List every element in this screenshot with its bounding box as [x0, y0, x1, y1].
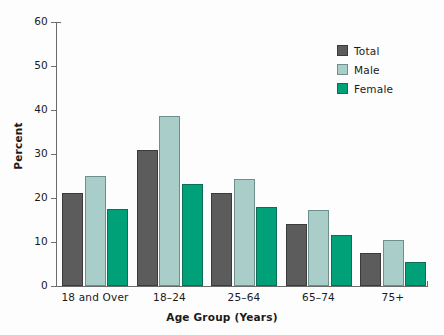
legend-swatch-icon — [337, 83, 348, 94]
bar-female-1 — [182, 184, 203, 286]
legend-swatch-icon — [337, 45, 348, 56]
y-axis-tick-label: 30 — [2, 147, 48, 159]
bar-total-3 — [286, 224, 307, 286]
bar-male-4 — [383, 240, 404, 286]
bar-female-2 — [256, 207, 277, 286]
y-axis-tick-label: 10 — [2, 235, 48, 247]
y-axis-title: Percent — [12, 111, 24, 181]
bar-female-0 — [107, 209, 128, 286]
bar-total-1 — [137, 150, 158, 286]
legend-label: Male — [354, 64, 380, 76]
legend-label: Total — [354, 45, 380, 57]
chart-legend: TotalMaleFemale — [337, 42, 393, 99]
bar-male-0 — [85, 176, 106, 286]
y-axis-tick-label: 0 — [2, 279, 48, 291]
bar-female-4 — [405, 262, 426, 286]
legend-item-total: Total — [337, 42, 393, 59]
bar-total-0 — [62, 193, 83, 286]
x-axis-line — [56, 286, 428, 287]
bar-male-2 — [234, 179, 255, 286]
bar-female-3 — [331, 235, 352, 286]
legend-label: Female — [354, 83, 393, 95]
bar-total-2 — [211, 193, 232, 286]
y-axis-tick-label: 50 — [2, 59, 48, 71]
x-axis-tick-label: 75+ — [333, 291, 444, 303]
legend-item-female: Female — [337, 80, 393, 97]
legend-item-male: Male — [337, 61, 393, 78]
legend-swatch-icon — [337, 64, 348, 75]
bar-chart: 0102030405060 Percent 18 and Over18–2425… — [0, 0, 444, 335]
bar-male-3 — [308, 210, 329, 286]
y-axis-tick-label: 60 — [2, 15, 48, 27]
y-axis-tick-label: 40 — [2, 103, 48, 115]
y-axis-tick-label: 20 — [2, 191, 48, 203]
bar-male-1 — [159, 116, 180, 286]
x-axis-title: Age Group (Years) — [0, 311, 444, 323]
y-axis-tick — [51, 286, 56, 287]
bar-total-4 — [360, 253, 381, 286]
